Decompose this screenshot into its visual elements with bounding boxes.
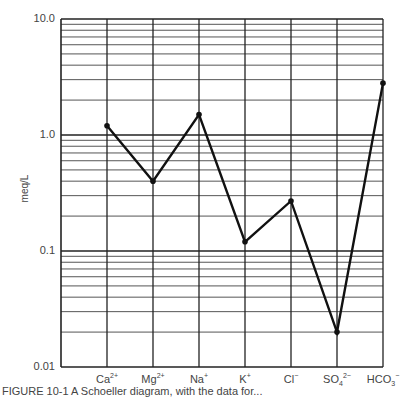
grid-lines (61, 19, 383, 367)
y-tick-label: 1.0 (5, 128, 55, 140)
y-tick-label: 10.0 (5, 12, 55, 24)
x-tick-label: Na+ (176, 372, 222, 385)
y-tick-label: 0.01 (5, 360, 55, 372)
x-tick-label: Ca2+ (84, 372, 130, 385)
x-tick-label: Mg2+ (130, 372, 176, 385)
x-tick-label: HCO3− (360, 372, 406, 387)
x-tick-label: Cl− (268, 372, 314, 385)
figure-caption: FIGURE 10-1 A Schoeller diagram, with th… (2, 385, 262, 397)
x-tick-label: K+ (222, 372, 268, 385)
y-tick-label: 0.1 (5, 244, 55, 256)
x-tick-label: SO42− (314, 372, 360, 387)
y-axis-label: meq/L (19, 169, 30, 209)
